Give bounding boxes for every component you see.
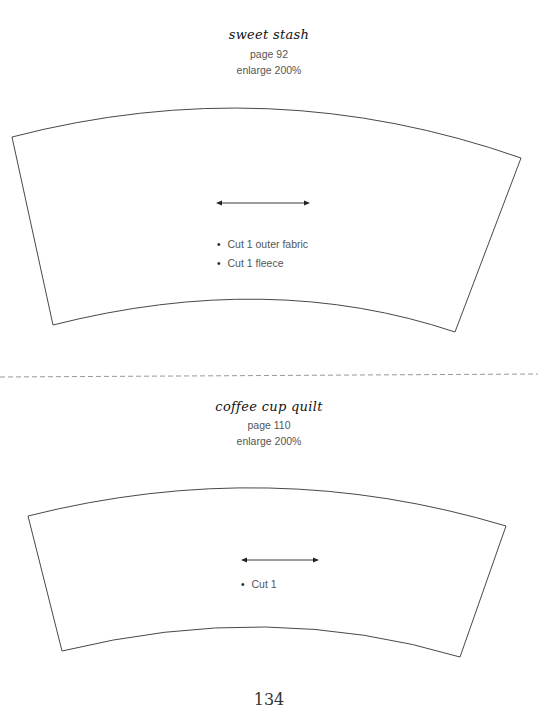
grainline-arrow-icon <box>241 558 319 563</box>
cut-instruction: Cut 1 <box>241 575 277 594</box>
cut-instructions-list: Cut 1 outer fabric Cut 1 fleece <box>217 235 308 273</box>
cut-instructions-list: Cut 1 <box>241 575 277 594</box>
page-number: 134 <box>0 690 538 709</box>
pattern-enlarge-note: enlarge 200% <box>0 435 538 447</box>
pattern-page-ref: page 110 <box>0 419 538 431</box>
cut-instruction: Cut 1 fleece <box>217 254 308 273</box>
cut-instruction: Cut 1 outer fabric <box>217 235 308 254</box>
pattern-piece-outline <box>28 488 506 657</box>
pattern-title-coffee-cup-quilt: coffee cup quilt <box>0 399 538 414</box>
pattern-piece-outline <box>12 108 521 332</box>
cut-divider-line <box>0 374 538 377</box>
grainline-arrow-icon <box>216 201 310 206</box>
